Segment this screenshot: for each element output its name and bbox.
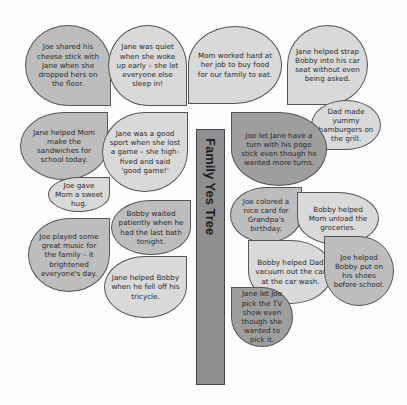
leaf-jane-helped-bobby: Jane helped Bobby when he fell off his t… [104, 256, 187, 318]
leaf-joe-music: Joe played some great music for the fami… [28, 218, 110, 292]
leaf-joe-shoes: Joe helped Bobby put on his shoes before… [324, 236, 394, 306]
leaf-text: Jane helped Bobby when he fell off his t… [111, 273, 180, 301]
leaf-jane-sandwiches: Jane helped Mom make the sandwiches for … [20, 112, 108, 180]
leaf-text: Joe helped Bobby put on his shoes before… [331, 253, 387, 290]
leaf-text: Jane was a good sport when she lost a ga… [109, 129, 181, 175]
leaf-text: Dad made yummy hamburgers on the grill. [318, 107, 374, 144]
leaf-text: Joe played some great music for the fami… [35, 232, 103, 278]
leaf-jane-strap-bobby: Jane helped strap Bobby into his car sea… [287, 25, 368, 105]
leaf-jane-good-sport: Jane was a good sport when she lost a ga… [102, 112, 188, 192]
leaf-jane-tv-show: Jane let Joe pick the TV show even thoug… [231, 287, 293, 347]
leaf-text: Joe shared his cheese stick with Jane wh… [32, 42, 104, 88]
leaf-text: Bobby waited patiently when he had the l… [118, 209, 184, 246]
leaf-joe-pogo-stick: Joe let Jane have a turn with his pogo s… [231, 112, 327, 186]
leaf-text: Jane helped Mom make the sandwiches for … [27, 128, 101, 165]
leaf-text: Jane was quiet when she woke up early – … [115, 42, 180, 88]
leaf-text: Bobby helped Mom unload the groceries. [304, 205, 372, 233]
leaf-joe-sweet-hug: Joe gave Mom a sweet hug. [48, 177, 110, 212]
leaf-text: Joe gave Mom a sweet hug. [55, 181, 103, 209]
family-yes-tree-diagram: Family Yes Tree Joe shared his cheese st… [0, 0, 407, 405]
leaf-text: Joe colored a nice card for Grandpa's bi… [237, 197, 295, 234]
leaf-text: Jane let Joe pick the TV show even thoug… [238, 289, 286, 344]
leaf-bobby-waited: Bobby waited patiently when he had the l… [111, 200, 191, 255]
leaf-mom-worked-hard: Mom worked hard at her job to buy food f… [188, 26, 282, 104]
tree-title: Family Yes Tree [203, 138, 218, 235]
tree-trunk: Family Yes Tree [196, 129, 225, 385]
leaf-joe-shared-cheese: Joe shared his cheese stick with Jane wh… [25, 25, 111, 106]
leaf-text: Bobby helped Dad vacuum out the car at t… [255, 258, 326, 286]
leaf-jane-quiet: Jane was quiet when she woke up early – … [108, 25, 187, 106]
leaf-text: Jane helped strap Bobby into his car sea… [294, 47, 361, 84]
leaf-text: Joe let Jane have a turn with his pogo s… [238, 131, 320, 168]
leaf-text: Mom worked hard at her job to buy food f… [195, 51, 275, 79]
leaf-joe-card-grandpa: Joe colored a nice card for Grandpa's bi… [230, 187, 302, 243]
